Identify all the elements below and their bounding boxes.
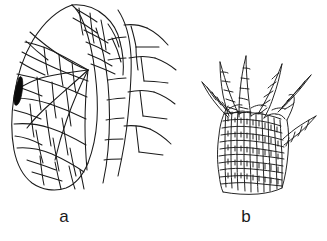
- panel-b-drawing: [190, 50, 320, 200]
- dark-cell-marking: [14, 77, 23, 106]
- panel-a-drawing: [0, 0, 180, 200]
- figure-plate: a b: [0, 0, 327, 241]
- figure-panel-b: [190, 50, 320, 200]
- figure-panel-a: [0, 0, 180, 200]
- panel-a-caption: a: [52, 208, 76, 225]
- panel-b-caption: b: [234, 208, 258, 225]
